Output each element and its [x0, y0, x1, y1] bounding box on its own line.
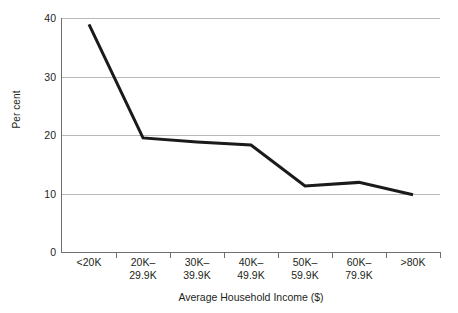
- x-tick-mark-7: [440, 252, 441, 258]
- x-tick-label-line1: <20K: [77, 256, 102, 268]
- x-tick-label-line1: 60K–: [347, 256, 372, 268]
- x-tick-label-line2: 29.9K: [116, 269, 170, 282]
- x-tick-label-line2: 79.9K: [332, 269, 386, 282]
- x-tick-label-line2: 49.9K: [224, 269, 278, 282]
- x-tick-label-line1: 30K–: [185, 256, 210, 268]
- x-tick-label-6: >80K: [386, 256, 440, 269]
- y-tick-label-20: 20: [10, 129, 56, 141]
- x-tick-label-line1: >80K: [401, 256, 426, 268]
- plot-area: [62, 18, 440, 252]
- x-tick-label-line2: 39.9K: [170, 269, 224, 282]
- data-series-line: [62, 18, 440, 252]
- y-tick-label-10: 10: [10, 188, 56, 200]
- y-tick-label-0: 0: [10, 246, 56, 258]
- line-chart: Per cent 010203040 <20K20K–29.9K30K–39.9…: [0, 0, 458, 313]
- x-tick-label-2: 30K–39.9K: [170, 256, 224, 282]
- x-tick-label-0: <20K: [62, 256, 116, 269]
- y-tick-label-40: 40: [10, 12, 56, 24]
- x-tick-label-line2: 59.9K: [278, 269, 332, 282]
- x-axis-tick-labels: <20K20K–29.9K30K–39.9K40K–49.9K50K–59.9K…: [62, 256, 440, 294]
- x-tick-label-3: 40K–49.9K: [224, 256, 278, 282]
- x-axis-line: [61, 252, 440, 253]
- y-tick-label-30: 30: [10, 71, 56, 83]
- x-tick-label-5: 60K–79.9K: [332, 256, 386, 282]
- y-axis-tick-labels: 010203040: [0, 0, 56, 313]
- x-axis-title: Average Household Income ($): [62, 291, 440, 303]
- x-tick-label-line1: 50K–: [293, 256, 318, 268]
- x-tick-label-line1: 20K–: [131, 256, 156, 268]
- x-tick-label-4: 50K–59.9K: [278, 256, 332, 282]
- x-tick-label-line1: 40K–: [239, 256, 264, 268]
- x-tick-label-1: 20K–29.9K: [116, 256, 170, 282]
